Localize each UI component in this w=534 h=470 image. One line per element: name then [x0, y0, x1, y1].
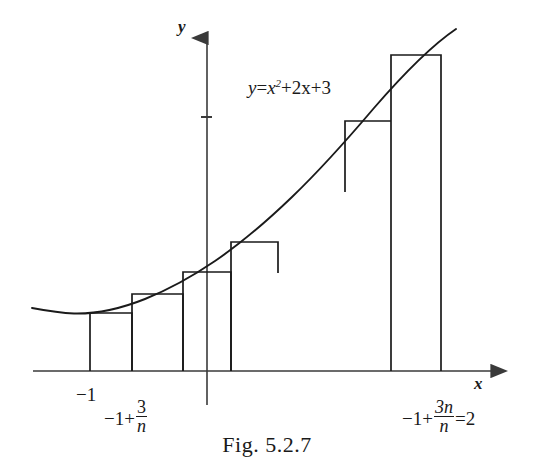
function-curve	[32, 29, 456, 314]
figure-caption: Fig. 5.2.7	[0, 432, 534, 458]
curve-equation-label: y=x2+2x+3	[248, 78, 331, 97]
rect-bar-6	[391, 55, 441, 371]
equation-equals: =	[256, 77, 267, 98]
fraction-numerator: 3	[136, 398, 147, 416]
riemann-rectangles	[90, 55, 441, 371]
y-axis-label: y	[178, 18, 186, 35]
fraction-3n-over-n: 3nn	[434, 398, 454, 436]
tick-label-minus-one: −1	[76, 385, 96, 404]
equation-rest: +2x+3	[281, 77, 331, 98]
tick-second-prefix: −1+	[104, 408, 135, 429]
fraction-3-over-n: 3n	[136, 398, 147, 436]
tick-label-first-partition: −1+3n	[104, 398, 148, 436]
fraction-numerator: 3n	[434, 398, 454, 416]
figure-container: y=x2+2x+3 y x −1 −1+3n −1+3nn=2 Fig. 5.2…	[0, 0, 534, 470]
rect-bar-4	[231, 242, 278, 371]
tick-right-suffix: =2	[455, 408, 475, 429]
tick-right-prefix: −1+	[402, 408, 433, 429]
tick-label-last-partition: −1+3nn=2	[402, 398, 475, 436]
rect-bar-5	[345, 121, 391, 192]
rect-bar-1	[90, 313, 132, 371]
x-axis-label: x	[474, 375, 483, 392]
equation-variable: x	[267, 77, 275, 98]
rect-bar-2	[132, 294, 183, 371]
